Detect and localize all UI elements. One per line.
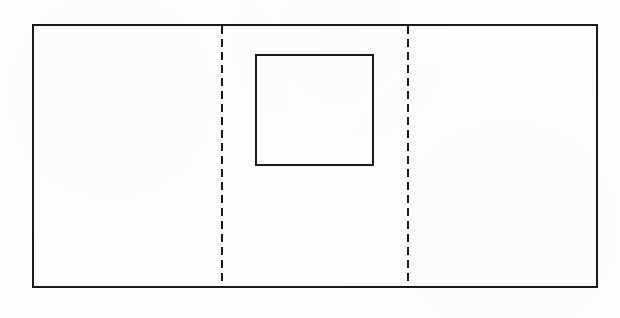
inner-square [256, 55, 373, 165]
line-diagram [0, 0, 620, 318]
figure-canvas [0, 0, 620, 318]
outer-rectangle [33, 25, 597, 287]
